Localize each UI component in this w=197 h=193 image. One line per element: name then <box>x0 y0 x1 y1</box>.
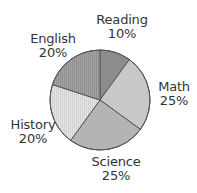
label-reading: Reading 10% <box>96 13 148 41</box>
label-reading-name: Reading <box>96 13 148 27</box>
pie-chart: Reading 10% English 20% Math 25% History… <box>0 0 197 193</box>
label-history-name: History <box>8 118 58 132</box>
label-history-pct: 20% <box>8 132 58 146</box>
label-math-pct: 25% <box>152 94 196 108</box>
label-math-name: Math <box>152 80 196 94</box>
pie-slices <box>50 50 150 150</box>
label-history: History 20% <box>8 118 58 146</box>
label-english: English 20% <box>28 32 78 60</box>
label-science: Science 25% <box>89 155 143 183</box>
label-science-pct: 25% <box>89 169 143 183</box>
label-english-name: English <box>28 32 78 46</box>
label-math: Math 25% <box>152 80 196 108</box>
label-science-name: Science <box>89 155 143 169</box>
label-english-pct: 20% <box>28 46 78 60</box>
label-reading-pct: 10% <box>96 27 148 41</box>
